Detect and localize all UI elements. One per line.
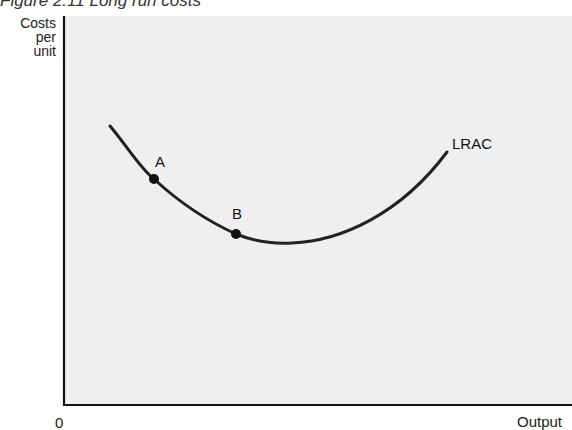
point-a-marker xyxy=(149,174,159,184)
point-b-marker xyxy=(231,229,241,239)
point-b-label: B xyxy=(232,205,242,222)
origin-label: 0 xyxy=(55,414,63,430)
lrac-curve xyxy=(110,126,447,243)
chart-svg: A B LRAC xyxy=(0,0,572,430)
point-a-label: A xyxy=(155,153,165,170)
x-axis-label: Output xyxy=(517,413,562,430)
lrac-label: LRAC xyxy=(452,135,492,152)
